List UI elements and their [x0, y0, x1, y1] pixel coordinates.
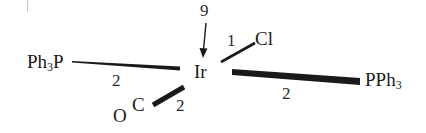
bond-label-pph3-right: 2 — [282, 85, 291, 102]
bond-ir-pph3-right — [232, 69, 360, 85]
complex-diagram: 9 Ir 1 Cl Ph3P 2 PPh3 2 O C 2 — [0, 0, 426, 133]
bond-label-co: 2 — [176, 97, 185, 114]
ligand-pph3-left-suffix: P — [53, 51, 64, 72]
bond-lines — [0, 0, 426, 133]
ligand-pph3-right-prefix: PPh — [365, 69, 396, 90]
ligand-pph3-left: Ph3P — [27, 52, 64, 71]
arrow-icon — [200, 23, 208, 58]
ligand-pph3-left-prefix: Ph — [27, 51, 47, 72]
bond-label-pph3-left: 2 — [112, 72, 121, 89]
top-annotation-number: 9 — [200, 2, 209, 19]
ligand-co-carbon: C — [132, 95, 145, 114]
bond-label-cl: 1 — [227, 32, 236, 49]
bond-ir-pph3-left — [72, 61, 180, 71]
center-atom-ir: Ir — [194, 62, 207, 81]
ligand-cl: Cl — [255, 29, 273, 48]
ligand-pph3-right-subscript: 3 — [396, 78, 402, 92]
ligand-pph3-right: PPh3 — [365, 70, 402, 89]
ligand-co-oxygen: O — [113, 106, 127, 125]
